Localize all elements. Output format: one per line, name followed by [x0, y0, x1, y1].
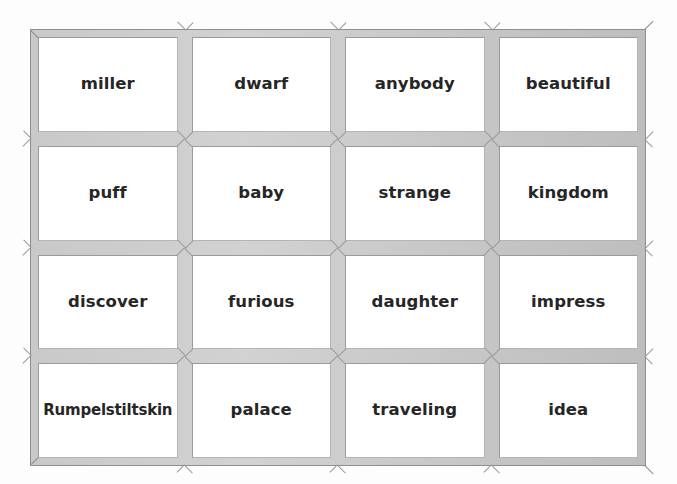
word-card[interactable]: strange: [345, 146, 485, 241]
grid-cell[interactable]: miller: [31, 30, 185, 139]
word-label: furious: [228, 294, 294, 311]
word-label: daughter: [372, 294, 458, 311]
word-card[interactable]: beautiful: [499, 37, 639, 132]
word-card[interactable]: dwarf: [192, 37, 332, 132]
grid-cell[interactable]: discover: [31, 248, 185, 357]
word-card[interactable]: impress: [499, 255, 639, 350]
word-label: impress: [531, 294, 605, 311]
word-label: beautiful: [526, 76, 611, 93]
grid-cell[interactable]: traveling: [338, 356, 492, 465]
word-label: palace: [231, 402, 292, 419]
frame-miter-top-right: [644, 21, 653, 30]
word-grid: miller dwarf anybody beautiful: [31, 30, 645, 465]
word-card[interactable]: palace: [192, 363, 332, 458]
word-label: baby: [238, 185, 284, 202]
grid-cell[interactable]: Rumpelstiltskin: [31, 356, 185, 465]
word-card[interactable]: discover: [38, 255, 178, 350]
word-card[interactable]: baby: [192, 146, 332, 241]
grid-cell[interactable]: daughter: [338, 248, 492, 357]
word-label: strange: [379, 185, 451, 202]
word-card[interactable]: puff: [38, 146, 178, 241]
grid-cell[interactable]: puff: [31, 139, 185, 248]
grid-cell[interactable]: beautiful: [492, 30, 646, 139]
word-label: miller: [81, 76, 135, 93]
grid-cell[interactable]: palace: [185, 356, 339, 465]
word-label: anybody: [375, 76, 455, 93]
word-card[interactable]: Rumpelstiltskin: [38, 363, 178, 458]
grid-cell[interactable]: anybody: [338, 30, 492, 139]
word-label: traveling: [372, 402, 457, 419]
word-label: kingdom: [528, 185, 609, 202]
grid-cell[interactable]: idea: [492, 356, 646, 465]
word-grid-page: miller dwarf anybody beautiful: [0, 0, 677, 484]
word-label: dwarf: [234, 76, 288, 93]
word-label: Rumpelstiltskin: [43, 403, 172, 418]
word-card[interactable]: kingdom: [499, 146, 639, 241]
grid-cell[interactable]: kingdom: [492, 139, 646, 248]
word-card[interactable]: miller: [38, 37, 178, 132]
grid-cell[interactable]: baby: [185, 139, 339, 248]
word-card[interactable]: daughter: [345, 255, 485, 350]
word-label: puff: [89, 185, 127, 202]
grid-cell[interactable]: furious: [185, 248, 339, 357]
grid-cell[interactable]: impress: [492, 248, 646, 357]
word-label: idea: [548, 402, 588, 419]
word-card[interactable]: idea: [499, 363, 639, 458]
word-card[interactable]: anybody: [345, 37, 485, 132]
word-card[interactable]: traveling: [345, 363, 485, 458]
word-label: discover: [68, 294, 147, 311]
grid-cell[interactable]: dwarf: [185, 30, 339, 139]
frame-miter-bottom-right: [644, 465, 653, 474]
grid-frame: miller dwarf anybody beautiful: [30, 29, 646, 466]
word-card[interactable]: furious: [192, 255, 332, 350]
grid-cell[interactable]: strange: [338, 139, 492, 248]
